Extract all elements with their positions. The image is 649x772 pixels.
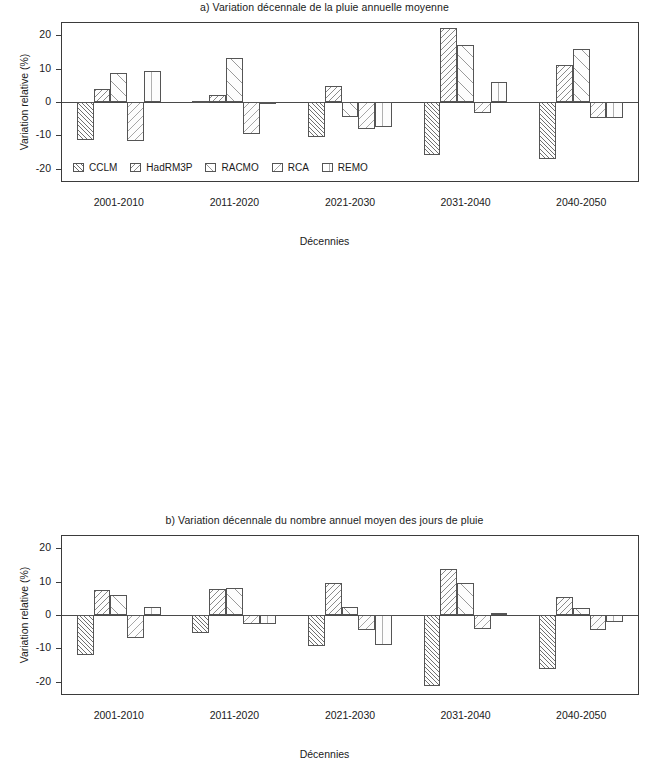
bar-b-2040-2050-CCLM bbox=[539, 615, 556, 669]
bar-a-2040-2050-RACMO bbox=[573, 49, 590, 102]
bar-a-2011-2020-RCA bbox=[243, 102, 260, 134]
bar-b-2031-2040-REMO bbox=[491, 613, 508, 615]
bar-b-2011-2020-REMO bbox=[260, 615, 277, 624]
bar-a-2040-2050-HadRM3P bbox=[556, 65, 573, 102]
bar-b-2021-2030-CCLM bbox=[308, 615, 325, 646]
panel-a-y-tick-label: -20 bbox=[15, 162, 51, 174]
bar-b-2011-2020-RCA bbox=[243, 615, 260, 624]
legend-entry-hadrm3p: HadRM3P bbox=[130, 163, 192, 173]
legend-label-cclm: CCLM bbox=[89, 163, 117, 173]
bar-a-2031-2040-RCA bbox=[474, 102, 491, 113]
legend-entry-rca: RCA bbox=[272, 163, 309, 173]
bar-a-2021-2030-HadRM3P bbox=[325, 86, 342, 102]
panel-b-x-tick-label: 2021-2030 bbox=[292, 709, 408, 721]
bar-a-2011-2020-RACMO bbox=[226, 58, 243, 102]
panel-b-y-tick-mark bbox=[56, 548, 61, 549]
panel-b-y-tick-label: 0 bbox=[15, 608, 51, 620]
bar-a-2001-2010-RACMO bbox=[110, 73, 127, 102]
bar-b-2031-2040-RCA bbox=[474, 615, 491, 629]
legend-swatch-racmo-icon bbox=[205, 163, 216, 172]
legend-label-remo: REMO bbox=[338, 163, 368, 173]
panel-b-x-axis-label: Décennies bbox=[0, 748, 649, 760]
panel-a-x-axis-label: Décennies bbox=[0, 235, 649, 247]
panel-a: a) Variation décennale de la pluie annue… bbox=[0, 0, 649, 257]
legend-label-hadrm3p: HadRM3P bbox=[146, 163, 192, 173]
panel-a-legend: CCLMHadRM3PRACMORCAREMO bbox=[73, 163, 381, 173]
legend-swatch-hadrm3p-icon bbox=[130, 163, 141, 172]
bar-a-2040-2050-REMO bbox=[606, 102, 623, 118]
panel-a-x-tick-label: 2001-2010 bbox=[61, 196, 177, 208]
panel-a-x-tick-label: 2021-2030 bbox=[292, 196, 408, 208]
bar-a-2031-2040-CCLM bbox=[424, 102, 441, 155]
bar-a-2031-2040-RACMO bbox=[457, 45, 474, 102]
bar-a-2021-2030-RACMO bbox=[342, 102, 359, 117]
panel-a-title: a) Variation décennale de la pluie annue… bbox=[0, 1, 649, 13]
bar-b-2011-2020-CCLM bbox=[192, 615, 209, 633]
panel-a-y-tick-label: 20 bbox=[15, 28, 51, 40]
bar-b-2001-2010-REMO bbox=[144, 607, 161, 615]
panel-a-y-tick-mark bbox=[56, 35, 61, 36]
panel-b: b) Variation décennale du nombre annuel … bbox=[0, 513, 649, 770]
bar-a-2001-2010-RCA bbox=[127, 102, 144, 141]
legend-swatch-remo-icon bbox=[322, 163, 333, 172]
bar-a-2021-2030-CCLM bbox=[308, 102, 325, 137]
panel-a-x-tick-label: 2011-2020 bbox=[177, 196, 293, 208]
bar-b-2021-2030-HadRM3P bbox=[325, 583, 342, 615]
panel-b-x-tick-label: 2031-2040 bbox=[408, 709, 524, 721]
bar-a-2011-2020-CCLM bbox=[192, 101, 209, 103]
bar-a-2001-2010-CCLM bbox=[77, 102, 94, 140]
bar-b-2040-2050-HadRM3P bbox=[556, 597, 573, 615]
bar-b-2040-2050-RCA bbox=[590, 615, 607, 630]
panel-b-x-tick-label: 2040-2050 bbox=[523, 709, 639, 721]
panel-a-y-tick-mark bbox=[56, 69, 61, 70]
bar-a-2011-2020-HadRM3P bbox=[209, 95, 226, 102]
bar-b-2011-2020-HadRM3P bbox=[209, 589, 226, 615]
legend-swatch-cclm-icon bbox=[73, 163, 84, 172]
panel-b-y-tick-label: -10 bbox=[15, 641, 51, 653]
panel-a-y-tick-label: 10 bbox=[15, 62, 51, 74]
bar-b-2011-2020-RACMO bbox=[226, 588, 243, 615]
bar-a-2001-2010-HadRM3P bbox=[94, 89, 111, 102]
bar-a-2011-2020-REMO bbox=[260, 102, 277, 104]
panel-a-y-tick-mark bbox=[56, 135, 61, 136]
panel-a-y-tick-label: 0 bbox=[15, 95, 51, 107]
legend-swatch-rca-icon bbox=[272, 163, 283, 172]
legend-label-rca: RCA bbox=[288, 163, 309, 173]
panel-b-y-tick-label: 10 bbox=[15, 575, 51, 587]
bar-a-2021-2030-RCA bbox=[358, 102, 375, 129]
panel-a-y-tick-mark bbox=[56, 169, 61, 170]
legend-entry-racmo: RACMO bbox=[205, 163, 258, 173]
bar-a-2040-2050-RCA bbox=[590, 102, 607, 118]
bar-a-2031-2040-REMO bbox=[491, 82, 508, 102]
figure-root: a) Variation décennale de la pluie annue… bbox=[0, 0, 649, 772]
bar-b-2031-2040-HadRM3P bbox=[440, 569, 457, 615]
bar-a-2040-2050-CCLM bbox=[539, 102, 556, 159]
panel-b-x-tick-label: 2011-2020 bbox=[177, 709, 293, 721]
bar-b-2021-2030-RCA bbox=[358, 615, 375, 630]
panel-a-y-tick-label: -10 bbox=[15, 128, 51, 140]
panel-b-y-tick-mark bbox=[56, 682, 61, 683]
bar-b-2031-2040-CCLM bbox=[424, 615, 441, 686]
panel-b-title: b) Variation décennale du nombre annuel … bbox=[0, 514, 649, 526]
panel-b-y-tick-label: 20 bbox=[15, 541, 51, 553]
bar-b-2001-2010-HadRM3P bbox=[94, 590, 111, 615]
bar-b-2021-2030-REMO bbox=[375, 615, 392, 645]
panel-b-y-tick-mark bbox=[56, 648, 61, 649]
panel-b-y-tick-label: -20 bbox=[15, 675, 51, 687]
bar-b-2031-2040-RACMO bbox=[457, 583, 474, 615]
bar-b-2001-2010-RCA bbox=[127, 615, 144, 638]
bar-a-2021-2030-REMO bbox=[375, 102, 392, 127]
bar-b-2001-2010-CCLM bbox=[77, 615, 94, 655]
panel-a-x-tick-label: 2040-2050 bbox=[523, 196, 639, 208]
panel-b-y-tick-mark bbox=[56, 582, 61, 583]
bar-b-2021-2030-RACMO bbox=[342, 607, 359, 615]
panel-a-x-tick-label: 2031-2040 bbox=[408, 196, 524, 208]
legend-entry-remo: REMO bbox=[322, 163, 368, 173]
bar-a-2001-2010-REMO bbox=[144, 71, 161, 102]
panel-b-x-tick-label: 2001-2010 bbox=[61, 709, 177, 721]
bar-a-2031-2040-HadRM3P bbox=[440, 28, 457, 102]
bar-b-2040-2050-REMO bbox=[606, 615, 623, 622]
bar-b-2001-2010-RACMO bbox=[110, 595, 127, 615]
legend-label-racmo: RACMO bbox=[221, 163, 258, 173]
legend-entry-cclm: CCLM bbox=[73, 163, 117, 173]
